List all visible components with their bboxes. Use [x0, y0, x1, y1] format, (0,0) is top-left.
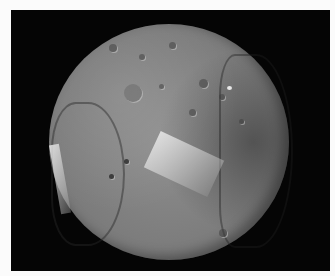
grooved-terrain-right	[219, 54, 293, 248]
crater	[109, 44, 117, 52]
crater	[239, 119, 244, 124]
crater	[199, 79, 208, 88]
crater	[159, 84, 164, 89]
moon-disc	[49, 24, 289, 260]
crater	[219, 229, 227, 237]
crater	[189, 109, 196, 116]
bright-chevron-feature	[144, 131, 224, 197]
image-frame	[11, 10, 330, 271]
crater	[169, 42, 176, 49]
crater	[124, 84, 142, 102]
crater	[139, 54, 145, 60]
crater	[219, 94, 225, 100]
crater	[124, 159, 129, 164]
bright-spot	[227, 86, 232, 90]
crater	[109, 174, 114, 179]
